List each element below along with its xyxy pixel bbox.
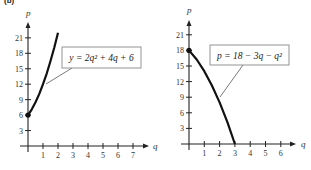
y-tick-label: 6 (180, 109, 184, 118)
curve-line (28, 33, 58, 115)
y-tick-label: 9 (19, 96, 23, 105)
chart-left-quadratic-increasing: pq123456736912151821y = 2q² + 4q + 6(b) (4, 0, 158, 160)
y-tick-label: 6 (19, 111, 23, 120)
x-tick-label: 5 (264, 149, 268, 158)
x-tick-label: 3 (71, 151, 75, 160)
y-tick-label: 15 (15, 65, 23, 74)
figure: pq123456736912151821y = 2q² + 4q + 6(b) … (0, 0, 311, 170)
y-tick-label: 9 (180, 93, 184, 102)
equation-label: p = 18 − 3q − q² (216, 51, 282, 61)
y-axis-arrow-icon (26, 22, 31, 28)
y-tick-label: 3 (180, 124, 184, 133)
part-label: (b) (4, 0, 15, 5)
x-tick-label: 6 (279, 149, 283, 158)
y-tick-label: 12 (176, 78, 184, 87)
x-tick-label: 7 (131, 151, 135, 160)
x-tick-label: 4 (86, 151, 90, 160)
y-axis-arrow-icon (187, 20, 192, 26)
x-axis-label: q (301, 139, 306, 149)
chart-right-quadratic-decreasing: pq12345636912151821p = 18 − 3q − q² (176, 5, 306, 158)
x-tick-label: 1 (41, 151, 45, 160)
y-axis-label: p (25, 8, 31, 18)
x-tick-label: 5 (101, 151, 105, 160)
endpoint-dot (186, 48, 191, 53)
y-tick-label: 21 (15, 34, 23, 43)
x-axis-arrow-icon (290, 142, 296, 147)
leader-line (220, 65, 243, 97)
x-axis-label: q (153, 141, 158, 151)
y-tick-label: 18 (176, 46, 184, 55)
leader-line (46, 68, 72, 84)
y-tick-label: 15 (176, 62, 184, 71)
x-tick-label: 1 (202, 149, 206, 158)
x-axis-arrow-icon (143, 144, 149, 149)
x-tick-label: 2 (218, 149, 222, 158)
y-tick-label: 3 (19, 127, 23, 136)
x-tick-label: 6 (116, 151, 120, 160)
y-tick-label: 21 (176, 31, 184, 40)
x-tick-label: 4 (248, 149, 252, 158)
y-tick-label: 18 (15, 49, 23, 58)
y-axis-label: p (186, 5, 192, 15)
x-tick-label: 2 (56, 151, 60, 160)
equation-label: y = 2q² + 4q + 6 (68, 53, 134, 63)
endpoint-dot (25, 113, 30, 118)
x-tick-label: 3 (233, 149, 237, 158)
y-tick-label: 12 (15, 80, 23, 89)
